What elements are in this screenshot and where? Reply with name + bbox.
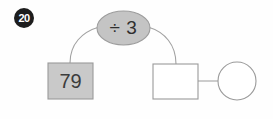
input-value-label: 79	[48, 63, 93, 99]
left-arc-connector	[70, 27, 99, 63]
worksheet-item: 20 79 ÷ 3	[0, 0, 273, 119]
result-value-label[interactable]	[218, 62, 256, 100]
operation-label: ÷ 3	[97, 11, 150, 45]
right-arc-connector	[148, 27, 176, 64]
output-value-label[interactable]	[153, 64, 198, 99]
